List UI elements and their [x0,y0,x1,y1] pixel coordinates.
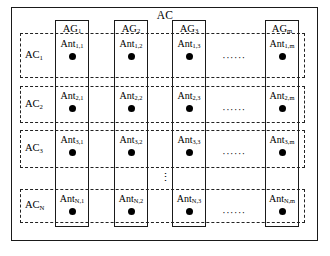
antenna-label-2-1: Ant2,1 [44,90,100,103]
antenna-cluster-subscript-1: 1 [40,53,43,60]
antenna-subscript-2-3: 2,3 [193,94,201,101]
antenna-cell-n-2: AntN,2 [103,193,159,215]
antenna-dot-1-1 [69,53,76,60]
antenna-dot-n-1 [69,208,76,215]
antenna-label-3-3: Ant3,3 [161,134,217,147]
antenna-dot-3-1 [69,149,76,156]
antenna-dot-2-2 [128,105,135,112]
antenna-label-3-2: Ant3,2 [103,134,159,147]
antenna-subscript-n-2: N,2 [134,197,143,204]
antenna-cell-3-2: Ant3,2 [103,134,159,156]
antenna-label-n-3: AntN,3 [161,193,217,206]
antenna-subscript-3-m: 3,m [285,138,295,145]
antenna-dot-2-3 [186,105,193,112]
antenna-label-n-m: AntN,m [254,193,310,206]
antenna-cell-2-m: Ant2,m [254,90,310,112]
antenna-dot-3-m [279,149,286,156]
antenna-dot-1-3 [186,53,193,60]
antenna-cluster-subscript-2: 2 [40,102,43,109]
antenna-dot-2-1 [69,105,76,112]
antenna-dot-n-3 [186,208,193,215]
antenna-subscript-3-3: 3,3 [193,138,201,145]
antenna-label-3-m: Ant3,m [254,134,310,147]
antenna-label-1-m: Ant1,m [254,38,310,51]
antenna-cluster-subscript-3: 3 [40,147,43,154]
antenna-label-2-3: Ant2,3 [161,90,217,103]
antenna-cell-n-m: AntN,m [254,193,310,215]
antenna-cluster-label-2: AC2 [25,98,43,111]
diagram-canvas: AC AG1 AG2 AG3 AGm AC1 AC2 AC3 ACN Ant1,… [0,0,330,256]
antenna-subscript-1-2: 1,2 [135,42,143,49]
antenna-cell-3-m: Ant3,m [254,134,310,156]
antenna-label-1-2: Ant1,2 [103,38,159,51]
antenna-subscript-1-3: 1,3 [193,42,201,49]
antenna-cell-1-m: Ant1,m [254,38,310,60]
antenna-dot-n-2 [128,208,135,215]
antenna-cell-2-2: Ant2,2 [103,90,159,112]
antenna-subscript-2-2: 2,2 [135,94,143,101]
antenna-dot-2-m [279,105,286,112]
antenna-subscript-2-1: 2,1 [76,94,84,101]
antenna-subscript-3-2: 3,2 [135,138,143,145]
antenna-cluster-label-3: AC3 [25,142,43,155]
antenna-cell-n-1: AntN,1 [44,193,100,215]
antenna-label-n-1: AntN,1 [44,193,100,206]
antenna-label-2-2: Ant2,2 [103,90,159,103]
antenna-cluster-label-n: ACN [25,199,44,212]
antenna-subscript-3-1: 3,1 [76,138,84,145]
antenna-subscript-n-3: N,3 [192,197,201,204]
antenna-dot-n-m [279,208,286,215]
antenna-dot-1-m [279,53,286,60]
antenna-label-1-3: Ant1,3 [161,38,217,51]
antenna-cell-3-1: Ant3,1 [44,134,100,156]
antenna-cell-1-1: Ant1,1 [44,38,100,60]
antenna-label-n-2: AntN,2 [103,193,159,206]
antenna-cluster-label-1: AC1 [25,49,43,62]
antenna-dot-1-2 [128,53,135,60]
antenna-label-2-m: Ant2,m [254,90,310,103]
antenna-dot-3-3 [186,149,193,156]
antenna-dot-3-2 [128,149,135,156]
antenna-subscript-n-1: N,1 [75,197,84,204]
antenna-cell-2-1: Ant2,1 [44,90,100,112]
vertical-ellipsis: ⋮ [155,172,175,182]
antenna-subscript-2-m: 2,m [285,94,295,101]
antenna-label-3-1: Ant3,1 [44,134,100,147]
antenna-label-1-1: Ant1,1 [44,38,100,51]
antenna-subscript-1-1: 1,1 [76,42,84,49]
antenna-subscript-n-m: N,m [284,197,295,204]
antenna-cell-1-2: Ant1,2 [103,38,159,60]
antenna-subscript-1-m: 1,m [285,42,295,49]
